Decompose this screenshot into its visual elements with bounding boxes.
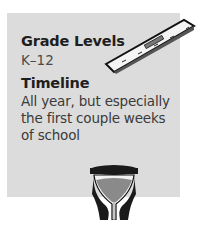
hourglass-icon [86,164,142,220]
timeline-value: All year, but especially the first coupl… [21,93,181,144]
grade-levels-heading: Grade Levels [21,33,125,49]
timeline-heading: Timeline [21,75,89,91]
grade-levels-value: K–12 [21,52,54,68]
